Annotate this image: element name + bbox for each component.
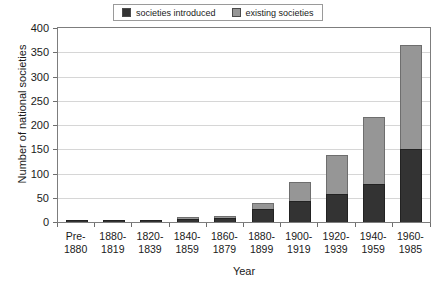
x-axis-tick-mark [57, 223, 58, 227]
y-axis-tick-label: 200 [0, 119, 57, 131]
bar-segment-societies-introduced [140, 220, 162, 222]
x-axis-tick-mark [280, 223, 281, 227]
x-axis-tick-label: 1840-1859 [167, 230, 207, 256]
bar-segment-societies-introduced [66, 220, 88, 222]
bar-segment-societies-introduced [326, 194, 348, 222]
x-axis-tick-label: Pre-1880 [56, 230, 96, 256]
bars-layer [58, 28, 430, 222]
plot-area [57, 27, 431, 223]
bar-1940-1959 [363, 117, 385, 222]
bar-1840-1859 [177, 217, 199, 222]
x-axis-tick-mark [131, 223, 132, 227]
y-axis-tick-label: 300 [0, 71, 57, 83]
x-axis-tick-mark [392, 223, 393, 227]
x-axis-tick-mark [317, 223, 318, 227]
x-axis-tick-label: 1880-1819 [93, 230, 133, 256]
bar-segment-societies-introduced [214, 218, 236, 222]
legend-item-societies-introduced: societies introduced [122, 8, 216, 18]
bar-segment-societies-introduced [103, 220, 125, 222]
x-axis-tick-mark [430, 223, 431, 227]
x-axis-tick-mark [243, 223, 244, 227]
legend-swatch-existing-societies [232, 8, 241, 17]
y-axis-tick-label: 350 [0, 46, 57, 58]
y-axis-tick-label: 50 [0, 192, 57, 204]
legend-swatch-societies-introduced [122, 8, 131, 17]
bar-segment-societies-introduced [252, 209, 274, 222]
bar-1900-1919 [289, 182, 311, 222]
y-axis: 400350300250200150100500 [0, 27, 57, 223]
bar-segment-existing-societies [326, 155, 348, 194]
y-axis-title: Number of national societies [16, 24, 28, 204]
x-axis-tick-mark [206, 223, 207, 227]
x-axis-tick-mark [94, 223, 95, 227]
bar-segment-societies-introduced [400, 149, 422, 222]
y-axis-tick-label: 150 [0, 143, 57, 155]
x-axis-tick-label: 1860-1879 [204, 230, 244, 256]
bar-Pre-1880 [66, 220, 88, 222]
x-axis-tick-label: 1920-1939 [316, 230, 356, 256]
bar-segment-existing-societies [289, 182, 311, 201]
bar-1820-1839 [140, 220, 162, 222]
y-axis-tick-label: 400 [0, 22, 57, 34]
bar-segment-societies-introduced [177, 219, 199, 222]
legend-label-societies-introduced: societies introduced [136, 8, 216, 18]
x-axis-tick-label: 1900-1919 [279, 230, 319, 256]
y-axis-tick-label: 100 [0, 168, 57, 180]
x-axis: Pre-18801880-18191820-18391840-18591860-… [57, 223, 431, 263]
legend-label-existing-societies: existing societies [246, 8, 314, 18]
x-axis-tick-mark [355, 223, 356, 227]
y-axis-tick-label: 250 [0, 95, 57, 107]
x-axis-tick-label: 1940-1959 [353, 230, 393, 256]
bar-1860-1879 [214, 216, 236, 222]
bar-1920-1939 [326, 155, 348, 222]
y-axis-tick-label: 0 [0, 216, 57, 228]
x-axis-tick-label: 1820-1839 [130, 230, 170, 256]
x-axis-tick-label: 1880-1899 [242, 230, 282, 256]
bar-segment-existing-societies [400, 45, 422, 149]
bar-1880-1899 [252, 203, 274, 222]
x-axis-tick-label: 1960-1985 [390, 230, 430, 256]
bar-1880-1819 [103, 220, 125, 222]
chart-legend: societies introduced existing societies [113, 4, 323, 21]
legend-item-existing-societies: existing societies [232, 8, 314, 18]
bar-segment-societies-introduced [289, 201, 311, 222]
bar-segment-existing-societies [363, 117, 385, 184]
x-axis-tick-mark [169, 223, 170, 227]
stacked-bar-chart: societies introduced existing societies … [0, 0, 437, 292]
bar-segment-societies-introduced [363, 184, 385, 222]
x-axis-title: Year [57, 265, 431, 278]
bar-1960-1985 [400, 45, 422, 222]
